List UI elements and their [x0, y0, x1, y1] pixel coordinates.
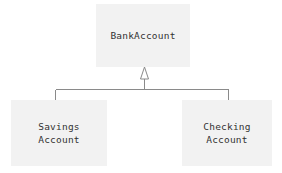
class-box-checkingaccount[interactable]: Checking Account	[182, 100, 272, 166]
class-name-bankaccount: BankAccount	[110, 29, 175, 42]
uml-class-diagram: BankAccount Savings Account Checking Acc…	[0, 0, 282, 173]
class-box-savingsaccount[interactable]: Savings Account	[11, 100, 107, 166]
class-name-checkingaccount: Checking Account	[203, 120, 250, 146]
class-box-bankaccount[interactable]: BankAccount	[96, 4, 190, 67]
hollow-triangle-arrowhead-icon	[141, 67, 149, 79]
class-name-savingsaccount: Savings Account	[38, 120, 79, 146]
